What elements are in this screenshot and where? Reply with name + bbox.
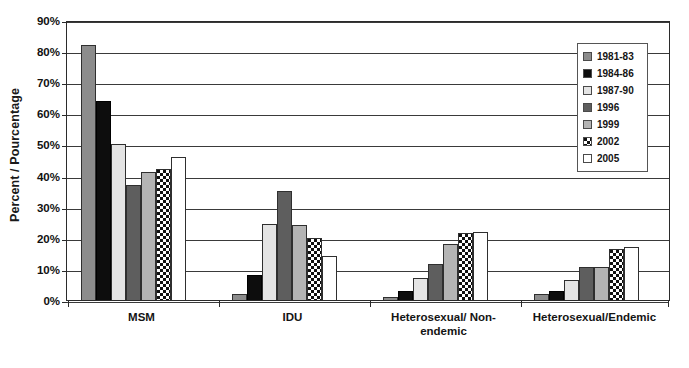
chart-page: Percent / Pourcentage 0%10%20%30%40%50%6… [0,0,689,368]
legend-swatch-icon [583,69,592,78]
legend-item[interactable]: 1984-86 [583,65,643,82]
x-axis-label: Heterosexual/Endemic [519,310,670,324]
y-tick-label: 70% [37,77,60,89]
legend-item[interactable]: 1981-83 [583,48,643,65]
legend-item[interactable]: 2002 [583,133,643,150]
legend-item[interactable]: 2005 [583,150,643,167]
bar [383,297,398,300]
legend-item-label: 2002 [597,136,619,147]
y-tick-label: 10% [37,264,60,276]
y-tick-label: 60% [37,108,60,120]
y-tick-label: 80% [37,46,60,58]
bar-group [232,22,337,300]
y-tick-label: 90% [37,15,60,27]
bar [277,191,292,300]
legend-item-label: 1987-90 [597,85,634,96]
legend-item-label: 1984-86 [597,68,634,79]
legend-swatch-icon [583,52,592,61]
legend-item-label: 1981-83 [597,51,634,62]
bar [413,278,428,300]
bar [126,185,141,300]
x-axis-label-line: MSM [66,310,217,324]
x-tick-mark [668,301,669,307]
x-axis-label-line: endemic [368,324,519,338]
legend-item-label: 2005 [597,153,619,164]
bar [443,244,458,300]
y-tick-label: 0% [43,295,60,307]
y-tick-label: 30% [37,202,60,214]
bar [564,280,579,300]
bar [609,249,624,300]
bar [549,291,564,300]
bar [292,225,307,300]
bar [458,233,473,300]
bar-group [383,22,488,300]
x-tick-mark [370,301,371,307]
x-tick-mark [68,301,69,307]
bar [473,232,488,300]
y-tick-label: 50% [37,139,60,151]
x-axis-label-line: Heterosexual/Endemic [519,310,670,324]
legend-swatch-icon [583,103,592,112]
y-axis-title-text: Percent / Pourcentage [8,88,22,222]
x-tick-mark [521,301,522,307]
y-tick-mark [62,302,67,303]
bar [171,157,186,300]
bar [594,267,609,300]
bar [156,169,171,300]
bar [247,275,262,300]
legend-swatch-icon [583,120,592,129]
legend-swatch-icon [583,154,592,163]
bar [96,101,111,300]
legend-item[interactable]: 1999 [583,116,643,133]
y-tick-label: 40% [37,171,60,183]
bar [111,144,126,300]
y-tick-label: 20% [37,233,60,245]
legend-swatch-icon [583,137,592,146]
bar [579,267,594,300]
legend-item[interactable]: 1996 [583,99,643,116]
bar [232,294,247,300]
gridline [67,302,669,303]
x-tick-mark [219,301,220,307]
x-axis-label: Heterosexual/ Non-endemic [368,310,519,338]
legend-item-label: 1996 [597,102,619,113]
bar [81,45,96,300]
bar [307,238,322,300]
bar [398,291,413,300]
legend-swatch-icon [583,86,592,95]
bar [322,256,337,300]
bar [534,294,549,300]
x-axis-label-line: IDU [217,310,368,324]
bar [262,224,277,300]
bar [141,172,156,300]
x-axis-label: IDU [217,310,368,324]
chart-legend: 1981-831984-861987-901996199920022005 [577,43,648,172]
bar [428,264,443,300]
x-axis-label-line: Heterosexual/ Non- [368,310,519,324]
y-axis-tick-labels: 0%10%20%30%40%50%60%70%80%90% [24,21,64,301]
x-axis-label: MSM [66,310,217,324]
legend-item[interactable]: 1987-90 [583,82,643,99]
legend-item-label: 1999 [597,119,619,130]
bar-group [81,22,186,300]
bar [624,247,639,300]
